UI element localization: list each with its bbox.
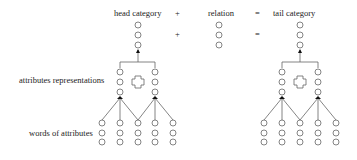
diagram-canvas (0, 0, 357, 160)
